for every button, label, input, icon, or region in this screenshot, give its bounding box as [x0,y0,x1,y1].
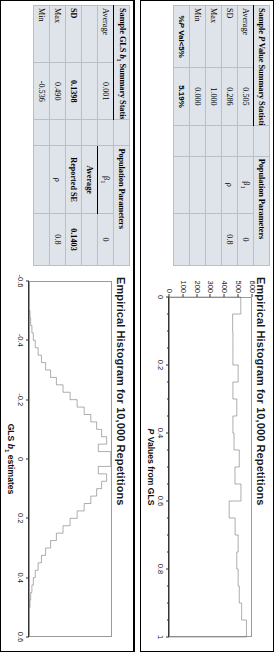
spacer-cell [206,125,222,156]
table-row: Average 0.505 β1 0 [238,6,254,266]
y-tick-mark [210,294,211,297]
row-value-blank [82,63,98,120]
gls-chart-wrap: Empirical Histogram for 10,000 Repetitio… [1,269,133,651]
row-value-average: 0.505 [238,68,254,125]
param-value-beta1: 0 [98,213,114,265]
pvalue-plot-area: 00.20.40.60.810100200300400500600 P Valu… [169,297,252,637]
x-tick-label: 0.2 [16,513,25,523]
row-label-min: Min [190,6,206,68]
x-minor-tick-mark [167,535,169,536]
x-tick-label: 0.2 [156,360,165,370]
param-value-empty [34,213,50,265]
gls-x-axis-label: GLS b1 estimates [4,424,16,495]
param-name-beta1: β1 [238,156,254,213]
gls-histogram-path [29,281,112,637]
x-tick-label: -0.2 [16,393,25,406]
row-label-sd: SD [222,6,238,68]
x-tick-mark [26,577,29,578]
table-row: Max 0.490 ρ 0.8 [50,6,66,266]
y-tick-mark [169,294,170,297]
param-name-rho: ρ [50,146,66,214]
pvalue-footer-value: 5.19% [174,68,190,125]
row-label-blank [82,6,98,63]
pvalue-summary-table: Sample P Value Summary Statistics Popula… [173,5,270,266]
row-value-sd: 0.286 [222,68,238,125]
x-tick-mark [166,365,169,366]
x-minor-tick-mark [167,620,169,621]
spacer-cell [222,125,238,156]
row-label-max: Max [50,6,66,63]
table-header-row: Sample P Value Summary Statistics Popula… [254,6,270,266]
param-name-average: Average [82,146,98,214]
y-tick-mark [182,294,183,297]
header-gap-cell [254,125,270,156]
x-tick-mark [166,569,169,570]
spacer-cell [238,125,254,156]
param-value-beta1: 0 [238,213,254,265]
y-tick-mark [238,294,239,297]
table-row: SD 0.286 ρ 0.8 [222,6,238,266]
pvalue-table-header-right: Population Parameters [254,156,270,265]
pvalue-x-axis-label: P Values from GLS [146,429,156,506]
x-minor-tick-mark [167,467,169,468]
x-tick-label: -0.4 [16,334,25,347]
row-value-min: 0.000 [190,68,206,125]
x-minor-tick-mark [167,399,169,400]
param-name-beta1: β1 [98,146,114,214]
figure-container: Sample P Value Summary Statistics Popula… [0,0,276,652]
x-tick-mark [26,459,29,460]
x-minor-tick-mark [167,450,169,451]
spacer-cell [82,120,98,146]
x-tick-mark [26,399,29,400]
x-tick-mark [26,281,29,282]
table-row: Average [82,6,98,266]
pvalue-summary-table-wrap: Sample P Value Summary Statistics Popula… [141,1,273,269]
y-tick-mark [224,294,225,297]
x-tick-mark [166,501,169,502]
y-tick-label: 600 [248,280,257,293]
row-value-max: 0.490 [50,63,66,120]
row-label-max: Max [206,6,222,68]
x-tick-label: 0.6 [156,496,165,506]
x-tick-label: 1 [156,635,165,639]
pvalue-panel: Sample P Value Summary Statistics Popula… [140,0,274,652]
x-tick-mark [26,340,29,341]
x-minor-tick-mark [167,518,169,519]
param-value-rho: 0.8 [222,213,238,265]
row-value-sd: 0.1398 [66,63,82,120]
x-tick-label: 0 [156,295,165,299]
x-tick-label: 0.4 [156,428,165,438]
x-minor-tick-mark [167,348,169,349]
gls-table-header-right: Population Parameters [114,146,130,266]
footer-spacer [174,213,190,265]
y-tick-mark [252,294,253,297]
gls-table-header-left: Sample GLS b1 Summary Statistics [114,6,130,120]
table-footer-row: %P Val<5% 5.19% [174,6,190,266]
gls-b1-panel: Sample GLS b1 Summary Statistics Populat… [0,0,135,652]
spacer-cell [34,120,50,146]
row-value-average: 0.001 [98,63,114,120]
param-value-rho: 0.8 [50,213,66,265]
param-value-reported-se: 0.1403 [66,213,82,265]
table-row: Max 1.000 [206,6,222,266]
spacer-cell [98,120,114,146]
y-tick-label: 200 [192,280,201,293]
x-tick-label: 0.6 [16,632,25,642]
x-minor-tick-mark [167,603,169,604]
table-row: SD 0.1398 Reported SE 0.1403 [66,6,82,266]
table-row: Min 0.000 [190,6,206,266]
x-minor-tick-mark [167,314,169,315]
pvalue-footer-label: %P Val<5% [174,6,190,68]
x-minor-tick-mark [167,382,169,383]
x-tick-label: -0.6 [16,275,25,288]
spacer-cell [50,120,66,146]
row-label-sd: SD [66,6,82,63]
x-tick-mark [26,518,29,519]
spacer-cell [66,120,82,146]
row-label-average: Average [98,6,114,63]
table-row: Min -0.536 [34,6,50,266]
y-tick-label: 400 [220,280,229,293]
param-name-rho: ρ [222,156,238,213]
param-value-blank [82,213,98,265]
rotated-page-canvas: Sample P Value Summary Statistics Popula… [0,0,276,652]
